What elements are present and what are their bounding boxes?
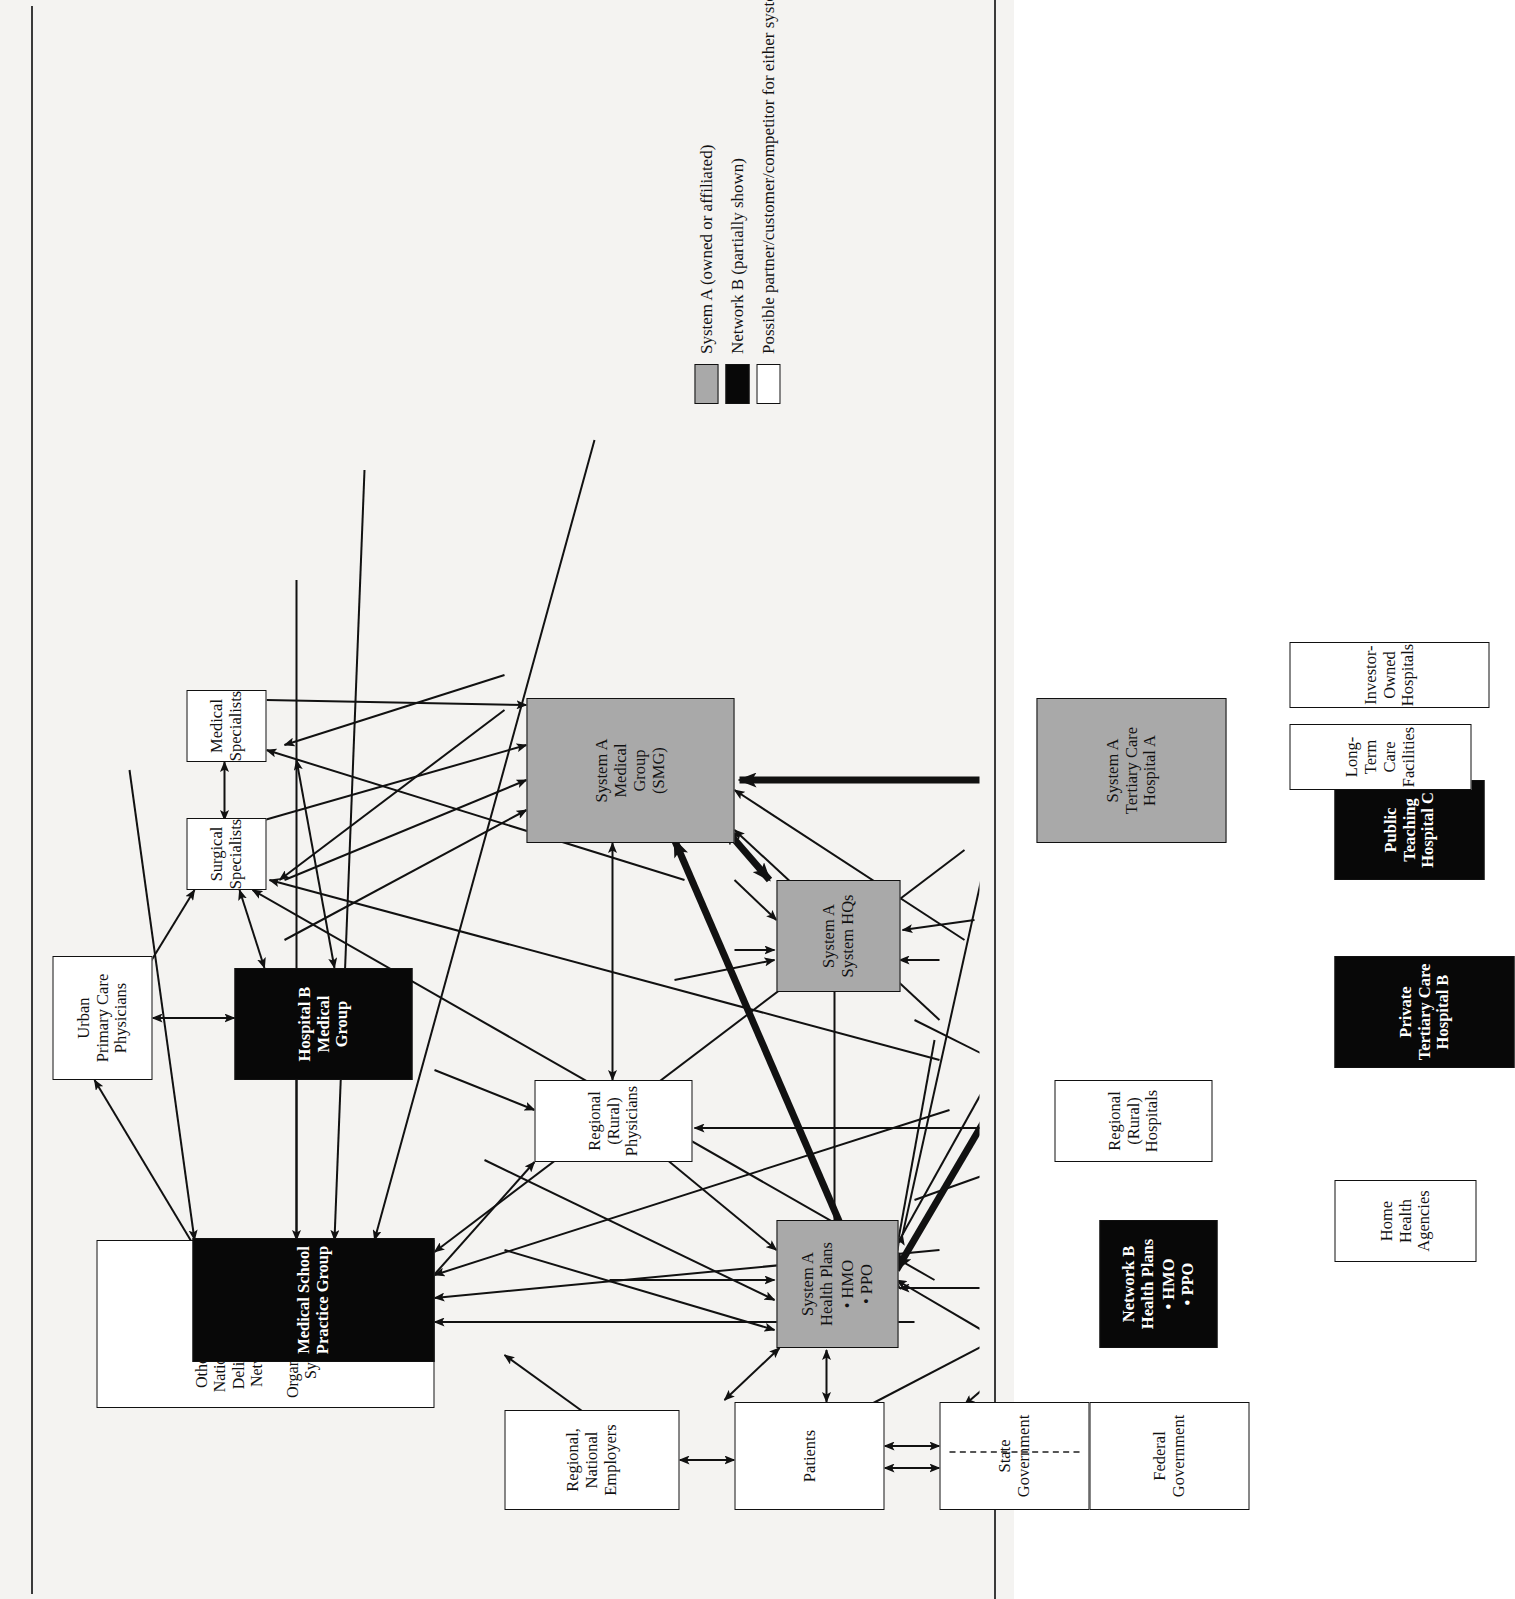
node-medical-school[interactable]: Medical School Practice Group [193,1238,435,1362]
node-public-teaching-hospital-c[interactable]: Public Teaching Hospital C [1335,780,1485,880]
node-sahp-bullet-ppo: PPO [857,1242,876,1326]
legend-swatch-white [757,364,781,404]
node-system-a-system-hqs[interactable]: System A System HQs [777,880,901,992]
legend-swatch-gray [695,364,719,404]
node-system-a-health-plans[interactable]: System A Health Plans HMO PPO [777,1220,899,1348]
node-privb-line3: Hospital B [1434,963,1453,1060]
relationship-diagram: Other Regionally or Nationally Integrate… [35,20,980,1580]
node-system-a-tertiary-care-hospital-a[interactable]: System A Tertiary Care Hospital A [1037,698,1227,843]
node-stategov-line2: Government [1015,1414,1034,1496]
node-tert-line1: System A [1103,726,1122,813]
node-long-term-care-facilities[interactable]: Long-Term Care Facilities [1290,724,1472,790]
legend-label-network-b: Network B (partially shown) [728,158,748,354]
legend-swatch-black [726,364,750,404]
node-inv-line1: Investor-Owned [1361,643,1399,705]
node-reghosp-line3: Hospitals [1143,1089,1162,1151]
node-surgical-line2: Specialists [227,818,246,889]
node-sahp-bullets: HMO PPO [839,1242,877,1326]
node-medical-specialists[interactable]: Medical Specialists [187,690,267,762]
legend-label-system-a: System A (owned or affiliated) [697,144,717,353]
node-patients[interactable]: Patients [735,1402,885,1510]
node-sahq-line1: System A [820,894,839,977]
node-reghosp-line2: (Rural) [1124,1089,1143,1151]
node-smg-line1: System A [593,738,612,802]
node-inv-line2: Hospitals [1399,643,1418,705]
node-nbhp-bullets: HMO PPO [1160,1238,1198,1328]
node-urban-pcp-line2: Primary Care [93,973,112,1061]
node-tert-line3: Hospital A [1141,726,1160,813]
page-rule-left [31,6,33,1594]
node-pubc-line2: Teaching [1400,792,1419,868]
node-medical-school-line2: Practice Group [314,1245,333,1353]
node-regphys-line1: Regional [585,1085,604,1156]
node-ltc-line1: Long-Term [1343,726,1381,786]
node-smg-line2: Medical [612,738,631,802]
legend-item-system-a: System A (owned or affiliated) [695,28,719,404]
node-employers-line1: Regional, [564,1424,583,1496]
node-regional-rural-hospitals[interactable]: Regional (Rural) Hospitals [1055,1080,1213,1162]
node-sahp-line2: Health Plans [818,1242,837,1326]
node-system-a-medical-group[interactable]: System A Medical Group (SMG) [527,698,735,843]
node-fedgov-line1: Federal [1151,1414,1170,1496]
page-rule-right [994,0,996,1599]
node-home-health-agencies[interactable]: Home Health Agencies [1335,1180,1477,1262]
node-sahq-line2: System HQs [839,894,858,977]
node-employers-line3: Employers [601,1424,620,1496]
node-reghosp-line1: Regional [1105,1089,1124,1151]
node-surgical-specialists[interactable]: Surgical Specialists [187,818,267,890]
node-home-line2: Health [1396,1190,1415,1251]
node-federal-government[interactable]: Federal Government [1090,1402,1250,1510]
node-hospb-line1: Hospital B [295,986,314,1061]
node-ltc-line2: Care Facilities [1381,726,1419,786]
node-regional-rural-physicians[interactable]: Regional (Rural) Physicians [535,1080,693,1162]
figure-rotated-wrapper: Other Regionally or Nationally Integrate… [35,20,980,1580]
node-privb-line2: Tertiary Care [1415,963,1434,1060]
node-urban-pcp-line3: Physicians [112,973,131,1061]
node-regphys-line3: Physicians [623,1085,642,1156]
node-stategov-line1: State [996,1414,1015,1496]
node-nbhp-line2: Health Plans [1139,1238,1158,1328]
legend-item-possible-partner: Possible partner/customer/competitor for… [757,28,781,404]
node-home-line1: Home [1377,1190,1396,1251]
node-urban-pcp-line1: Urban [74,973,93,1061]
legend-item-network-b: Network B (partially shown) [726,28,750,404]
node-medical-school-line1: Medical School [295,1245,314,1353]
node-tert-line2: Tertiary Care [1122,726,1141,813]
node-hospb-line3: Group [333,986,352,1061]
state-government-dashed-divider [950,1451,1080,1453]
legend-label-possible-partner: Possible partner/customer/competitor for… [759,0,779,354]
node-investor-owned-hospitals[interactable]: Investor-Owned Hospitals [1290,642,1490,708]
node-medspec-line1: Medical [208,690,227,761]
node-employers-line2: National [583,1424,602,1496]
node-hospital-b-medical-group[interactable]: Hospital B Medical Group [235,968,413,1080]
legend: System A (owned or affiliated) Network B… [695,28,788,404]
node-pubc-line1: Public [1381,792,1400,868]
node-nbhp-bullet-hmo: HMO [1160,1238,1179,1328]
node-network-b-health-plans[interactable]: Network B Health Plans HMO PPO [1100,1220,1218,1348]
node-smg-line4: (SMG) [649,738,668,802]
node-regphys-line2: (Rural) [604,1085,623,1156]
node-urban-primary-care-physicians[interactable]: Urban Primary Care Physicians [53,956,153,1080]
node-surgical-line1: Surgical [208,818,227,889]
node-medspec-line2: Specialists [227,690,246,761]
node-nbhp-bullet-ppo: PPO [1178,1238,1197,1328]
node-smg-line3: Group [631,738,650,802]
node-state-government[interactable]: State Government [940,1402,1090,1510]
node-home-line3: Agencies [1415,1190,1434,1251]
node-hospb-line2: Medical [314,986,333,1061]
node-sahp-bullet-hmo: HMO [839,1242,858,1326]
node-nbhp-line1: Network B [1120,1238,1139,1328]
node-fedgov-line2: Government [1170,1414,1189,1496]
node-patients-line1: Patients [800,1429,819,1481]
node-privb-line1: Private [1396,963,1415,1060]
node-private-tertiary-care-hospital-b[interactable]: Private Tertiary Care Hospital B [1335,956,1515,1068]
node-sahp-line1: System A [799,1242,818,1326]
node-pubc-line3: Hospital C [1419,792,1438,868]
node-regional-national-employers[interactable]: Regional, National Employers [505,1410,680,1510]
